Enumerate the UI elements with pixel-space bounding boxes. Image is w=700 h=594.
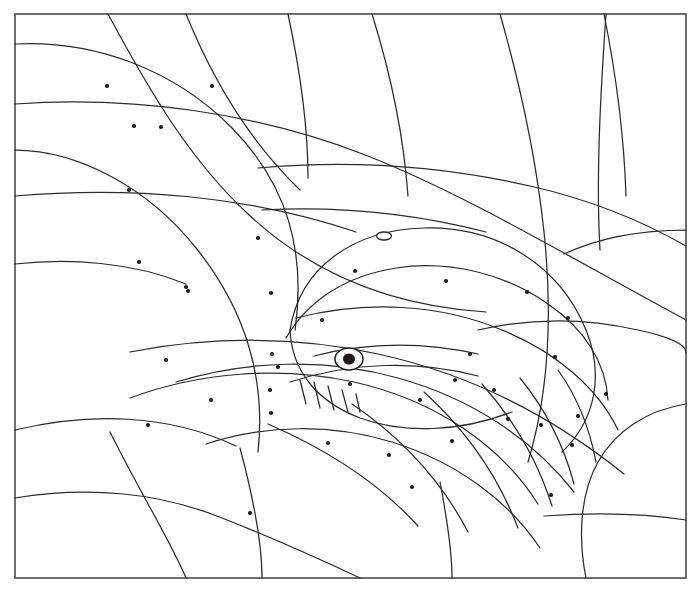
- region-dot-25: [492, 388, 496, 392]
- region-dot-24: [453, 378, 457, 382]
- region-dot-27: [506, 417, 510, 421]
- region-dot-32: [326, 441, 330, 445]
- blowhole-icon: [377, 232, 392, 240]
- region-dot-16: [270, 352, 274, 356]
- whale-eye: [335, 348, 363, 370]
- region-dot-15: [164, 358, 168, 362]
- region-dot-17: [468, 352, 472, 356]
- region-dot-5: [256, 236, 260, 240]
- region-dot-1: [210, 84, 214, 88]
- region-dot-36: [410, 485, 414, 489]
- region-dot-29: [576, 414, 580, 418]
- region-dot-10: [353, 269, 357, 273]
- region-dot-0: [105, 84, 109, 88]
- region-dot-28: [539, 423, 543, 427]
- region-dot-38: [248, 511, 252, 515]
- region-dot-33: [387, 453, 391, 457]
- region-dot-19: [276, 365, 280, 369]
- region-dot-14: [566, 316, 570, 320]
- region-dot-26: [418, 398, 422, 402]
- region-dot-18: [553, 355, 557, 359]
- region-dot-34: [450, 439, 454, 443]
- region-dot-11: [444, 279, 448, 283]
- region-dot-2: [132, 124, 136, 128]
- region-dot-22: [269, 411, 273, 415]
- region-dot-30: [604, 392, 608, 396]
- region-dot-8: [186, 289, 190, 293]
- coloring-page-canvas: [0, 0, 700, 594]
- region-dot-3: [159, 125, 163, 129]
- region-dot-4: [127, 188, 131, 192]
- region-dot-35: [570, 443, 574, 447]
- whale-line-drawing: [0, 0, 700, 594]
- region-dot-23: [348, 382, 352, 386]
- region-dot-7: [184, 285, 188, 289]
- region-dot-6: [137, 260, 141, 264]
- region-dot-13: [320, 318, 324, 322]
- region-dot-31: [146, 423, 150, 427]
- eye-pupil: [343, 354, 355, 365]
- region-dot-9: [269, 291, 273, 295]
- whale-blowhole: [377, 232, 392, 240]
- region-dot-21: [268, 388, 272, 392]
- region-dot-20: [209, 398, 213, 402]
- region-dot-12: [525, 290, 529, 294]
- region-dot-37: [549, 493, 553, 497]
